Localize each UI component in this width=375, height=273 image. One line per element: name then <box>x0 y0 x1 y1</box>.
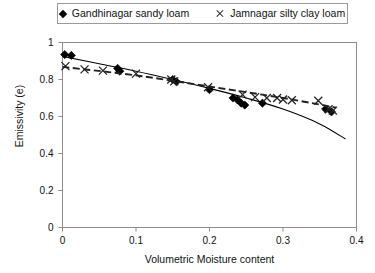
x-tick-label: 0.4 <box>337 235 375 246</box>
series-gandhinagar <box>61 50 346 139</box>
x-tick-label: 0.3 <box>263 235 303 246</box>
trendline-dashed <box>63 67 336 108</box>
y-tick-label: 0 <box>24 222 54 233</box>
y-axis-title: Emissivity (e) <box>13 41 25 191</box>
axis-frame <box>63 43 357 228</box>
emissivity-scatter-chart: Gandhinagar sandy loam Jamnagar silty cl… <box>0 0 375 273</box>
plot-area <box>0 0 375 273</box>
x-tick-label: 0.1 <box>116 235 156 246</box>
data-series-layer <box>61 50 346 139</box>
x-axis-title: Volumetric Moisture content <box>62 253 357 265</box>
y-tick-label: 1 <box>24 37 54 48</box>
y-tick-label: 0.2 <box>24 185 54 196</box>
series-jamnagar <box>61 62 337 114</box>
y-tick-label: 0.8 <box>24 74 54 85</box>
clipped-caption <box>0 266 375 273</box>
data-point-cross <box>273 94 281 102</box>
data-point-cross <box>279 95 287 103</box>
plot-frame <box>63 43 357 228</box>
x-tick-label: 0 <box>43 235 83 246</box>
x-tick-label: 0.2 <box>190 235 230 246</box>
y-tick-label: 0.6 <box>24 111 54 122</box>
y-tick-label: 0.4 <box>24 148 54 159</box>
